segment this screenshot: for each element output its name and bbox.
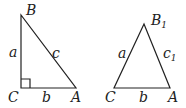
- right-triangle-edges: [21, 15, 76, 88]
- side-label-c1: c1: [163, 45, 177, 63]
- vertex-label-C: C: [105, 89, 116, 105]
- right-angle-marker: [21, 79, 30, 88]
- vertex-label-B1: B1: [150, 12, 167, 30]
- side-label-b: b: [42, 89, 51, 105]
- vertex-label-A: A: [69, 89, 81, 105]
- vertex-label-C: C: [8, 89, 19, 105]
- side-label-c: c: [52, 45, 60, 61]
- side-label-a: a: [9, 44, 17, 60]
- acute-triangle: B1 C A a b c1: [105, 12, 178, 105]
- right-triangle: B C A a b c: [8, 2, 81, 105]
- side-label-a: a: [118, 45, 126, 61]
- vertex-label-B: B: [25, 2, 36, 18]
- side-label-b: b: [139, 89, 148, 105]
- vertex-label-A: A: [166, 89, 178, 105]
- triangle-diagram: B C A a b c B1 C A a b c1: [0, 0, 186, 108]
